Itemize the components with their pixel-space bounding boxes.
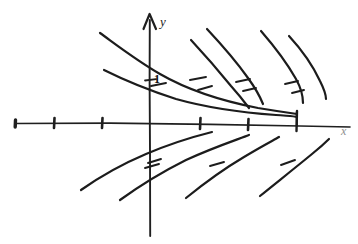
- slope-field-dashes: [145, 77, 304, 168]
- x-axis-tick: [102, 118, 103, 128]
- y-axis-label: y: [158, 14, 166, 29]
- slope-dash: [243, 88, 256, 91]
- slope-dash: [236, 79, 250, 82]
- solution-curves-below-axis: [81, 132, 329, 200]
- slope-dash: [198, 86, 212, 90]
- slope-dash: [145, 164, 159, 168]
- x-axis-line: [15, 123, 350, 127]
- solution-curve-lower-3: [186, 137, 279, 198]
- slope-field-figure: y x 1: [0, 0, 358, 244]
- x-axis-tick: [200, 118, 201, 129]
- solution-curves-above-axis: [100, 29, 326, 117]
- y-axis-unit-label: 1: [154, 72, 160, 86]
- slope-dash: [190, 77, 206, 80]
- x-axis-tick: [54, 118, 55, 128]
- solution-curve-upper-6: [289, 36, 326, 99]
- slope-dash: [210, 162, 224, 166]
- slope-dash: [281, 160, 295, 165]
- solution-curve-upper-1: [100, 33, 297, 114]
- y-axis-line: [150, 20, 151, 236]
- solution-curve-lower-2: [120, 135, 249, 200]
- solution-curve-lower-4: [260, 139, 329, 196]
- figure-canvas: y x 1: [0, 0, 358, 244]
- x-axis-tick: [248, 119, 249, 130]
- slope-dash: [285, 81, 298, 84]
- x-axis-label: x: [340, 124, 347, 138]
